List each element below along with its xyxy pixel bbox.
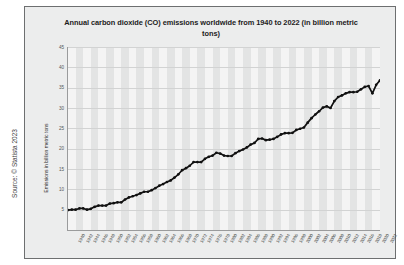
data-point [143, 190, 146, 193]
data-point [230, 155, 233, 158]
plot-area [68, 47, 380, 230]
data-point [284, 132, 287, 135]
data-point [70, 208, 73, 211]
data-point [306, 121, 309, 124]
y-tick-label: 20 [48, 146, 64, 151]
y-tick-label: 45 [48, 45, 64, 50]
y-tick-label: 5 [48, 207, 64, 212]
data-point [185, 167, 188, 170]
data-point [219, 152, 222, 155]
data-point [287, 132, 290, 135]
data-point [360, 88, 363, 91]
data-point [322, 106, 325, 109]
data-point [192, 161, 195, 164]
data-point [196, 161, 199, 164]
y-tick-label: 10 [48, 187, 64, 192]
data-point [139, 192, 142, 195]
data-point [356, 90, 359, 93]
data-point [101, 204, 104, 207]
data-point [295, 129, 298, 132]
data-point [135, 194, 138, 197]
data-point [207, 155, 210, 158]
plot-wrapper: 45403530252015105 1940194219441946194819… [68, 47, 380, 230]
data-point [348, 91, 351, 94]
data-point [177, 173, 180, 176]
source-credit: Source: © Statista 2023 [11, 114, 18, 214]
y-axis-title: Emissions in billion metric tons [43, 106, 49, 210]
data-point [166, 181, 169, 184]
chart-card: Annual carbon dioxide (CO) emissions wor… [24, 6, 396, 259]
data-point [344, 92, 347, 95]
x-axis-line [67, 230, 380, 231]
series-line [68, 47, 380, 230]
data-point [97, 204, 100, 207]
chart-title: Annual carbon dioxide (CO) emissions wor… [55, 17, 367, 39]
y-tick-label: 40 [48, 65, 64, 70]
data-point [245, 146, 248, 149]
data-point [375, 83, 378, 86]
y-tick-label: 35 [48, 85, 64, 90]
x-tick-label: 1976 [214, 233, 223, 244]
data-point [169, 179, 172, 182]
data-point [120, 201, 123, 204]
data-point [333, 100, 336, 103]
data-point [112, 202, 115, 205]
data-point [341, 94, 344, 97]
data-point [318, 110, 321, 113]
data-point [150, 189, 153, 192]
data-point [128, 196, 131, 199]
data-point [82, 207, 85, 210]
data-point [261, 137, 264, 140]
data-point [86, 208, 89, 211]
data-point [299, 127, 302, 130]
y-tick-label: 30 [48, 106, 64, 111]
data-point [204, 157, 207, 160]
data-point [215, 151, 218, 154]
data-point [325, 105, 328, 108]
data-point [310, 117, 313, 120]
data-point [265, 139, 268, 142]
x-tick-label: 1986 [252, 233, 261, 244]
data-point [181, 169, 184, 172]
data-point [249, 143, 252, 146]
data-point [93, 205, 96, 208]
data-point [314, 113, 317, 116]
data-point [257, 138, 260, 141]
data-point [109, 202, 112, 205]
data-point [147, 190, 150, 193]
data-point [78, 207, 81, 210]
data-point [158, 184, 161, 187]
data-point [105, 204, 108, 207]
data-point [363, 86, 366, 89]
data-point [226, 155, 229, 158]
chart-page: Source: © Statista 2023 Annual carbon di… [0, 0, 404, 265]
y-tick-label: 15 [48, 167, 64, 172]
data-point [276, 136, 279, 139]
x-tick-label: 1940 [77, 233, 86, 244]
y-tick-label: 25 [48, 126, 64, 131]
data-point [337, 96, 340, 99]
data-point [234, 152, 237, 155]
data-point [352, 91, 355, 94]
data-point [154, 187, 157, 190]
data-point [211, 154, 214, 157]
x-tick-label: 1996 [290, 233, 299, 244]
series-path [68, 80, 380, 210]
data-point [371, 92, 374, 95]
data-point [268, 138, 271, 141]
data-point [173, 176, 176, 179]
data-point [116, 201, 119, 204]
data-point [238, 150, 241, 153]
x-tick-label: 1950 [115, 233, 124, 244]
data-point [280, 133, 283, 136]
data-point [200, 161, 203, 164]
y-axis-line [67, 47, 68, 230]
data-point [188, 164, 191, 167]
x-tick-label: 1960 [153, 233, 162, 244]
data-point [124, 198, 127, 201]
data-point [303, 126, 306, 129]
data-point [162, 183, 165, 186]
data-point [367, 85, 370, 88]
data-point [253, 142, 256, 145]
data-point [131, 195, 134, 198]
